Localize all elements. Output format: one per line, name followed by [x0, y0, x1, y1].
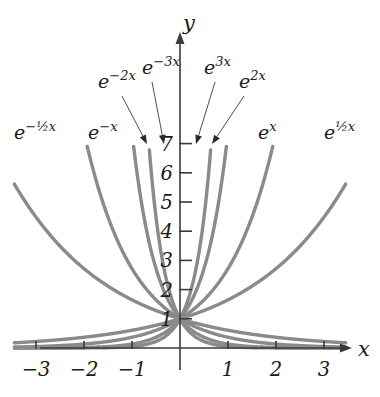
x-axis-arrowhead [340, 344, 352, 353]
curve-label-base: e [324, 121, 335, 143]
leader-arrowhead-e^{-2x} [140, 134, 147, 144]
y-tick-label: 6 [161, 162, 173, 185]
curve-label-exponent: −3x [153, 54, 180, 69]
y-tick-label: 5 [161, 191, 173, 214]
curve-e^{-3x} [149, 150, 345, 348]
x-axis-label: x [358, 337, 370, 361]
x-tick-label: −3 [22, 358, 51, 381]
curve-label-base: e [239, 70, 250, 92]
y-tick-label: 1 [161, 308, 173, 331]
leader-arrow-group [122, 82, 244, 144]
x-tick-label: 3 [318, 358, 330, 381]
axes-group [40, 32, 352, 370]
x-tick-label: 2 [269, 358, 282, 381]
curve-label-e^{-2x}: e−2x [98, 68, 136, 92]
y-tick-label: 4 [160, 220, 173, 243]
curve-label-base: e [98, 70, 109, 92]
curve-label-group: e3xe2xexe½xe−½xe−xe−2xe−3x [14, 54, 356, 143]
curve-label-exponent: 3x [215, 54, 231, 69]
chart-canvas: −3−2−11231234567 e3xe2xexe½xe−½xe−xe−2xe… [0, 0, 380, 397]
curve-label-e^{(1/2)x}: e½x [324, 119, 356, 143]
curve-label-base: e [142, 56, 153, 78]
curve-label-e^{-x}: e−x [88, 119, 118, 143]
curve-label-base: e [14, 121, 25, 143]
curve-label-base: e [258, 121, 269, 143]
curve-label-base: e [88, 121, 99, 143]
y-axis-label: y [182, 11, 196, 35]
x-tick-label: 1 [222, 358, 234, 381]
curve-label-e^{x}: ex [258, 119, 277, 143]
x-tick-label: −1 [118, 358, 147, 381]
curve-e^{-x} [87, 146, 345, 347]
leader-line-e^{3x} [199, 82, 215, 135]
curve-label-exponent: ½x [335, 119, 356, 134]
leader-arrowhead-e^{2x} [212, 135, 220, 144]
y-tick-label: 2 [160, 279, 173, 302]
curve-label-e^{3x}: e3x [204, 54, 232, 78]
curve-label-exponent: 2x [249, 68, 266, 83]
curve-label-e^{2x}: e2x [239, 68, 267, 92]
curve-label-base: e [204, 56, 215, 78]
curve-label-exponent: −x [99, 119, 118, 134]
x-tick-label: −2 [70, 358, 99, 381]
curve-label-e^{-3x}: e−3x [142, 54, 180, 78]
leader-line-e^{2x} [217, 96, 244, 137]
curve-e^{x} [14, 146, 272, 347]
curve-label-e^{-(1/2)x}: e−½x [14, 119, 57, 143]
curve-label-exponent: −½x [25, 119, 56, 134]
curve-label-exponent: −2x [109, 68, 136, 83]
leader-arrowhead-e^{3x} [195, 134, 202, 144]
curve-label-exponent: x [269, 119, 277, 134]
leader-line-e^{-3x} [152, 82, 162, 135]
y-tick-label: 3 [161, 249, 173, 272]
leader-line-e^{-2x} [122, 96, 143, 136]
exponential-functions-figure: −3−2−11231234567 e3xe2xexe½xe−½xe−xe−2xe… [0, 0, 380, 397]
